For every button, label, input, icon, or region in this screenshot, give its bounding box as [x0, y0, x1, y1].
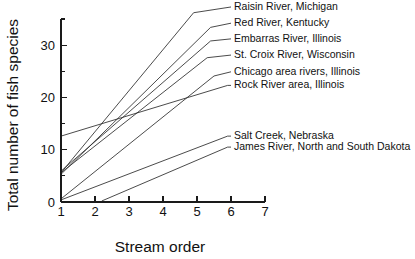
series-label: Red River, Kentucky	[234, 16, 330, 28]
series-line	[102, 147, 228, 201]
x-tick-label-group: 1234567	[57, 204, 268, 219]
x-tick-label: 1	[57, 204, 64, 219]
y-tick-label: 0	[48, 195, 55, 210]
series-line	[61, 76, 214, 199]
fish-species-vs-stream-order-chart: 0102030 1234567 Raisin River, MichiganRe…	[0, 0, 415, 259]
series-leader-line	[214, 72, 231, 76]
series-label: Chicago area rivers, Illinois	[234, 65, 360, 77]
x-tick-label: 3	[125, 204, 132, 219]
x-axis-title: Stream order	[115, 238, 205, 255]
series-line-group	[61, 13, 228, 201]
series-label: Embarras River, Illinois	[234, 32, 341, 44]
y-tick-label-group: 0102030	[41, 38, 55, 210]
series-label-group: Raisin River, MichiganRed River, Kentuck…	[234, 0, 410, 152]
x-tick-label: 2	[91, 204, 98, 219]
y-tick-label: 20	[41, 90, 55, 105]
x-tick-label: 7	[261, 204, 268, 219]
series-line	[61, 58, 207, 173]
y-tick-label: 30	[41, 38, 55, 53]
series-leader-line	[211, 39, 231, 41]
x-tick-label: 4	[159, 204, 166, 219]
x-tick-group	[61, 196, 265, 202]
y-axis-title: Total number of fish species	[4, 19, 21, 211]
x-tick-label: 5	[193, 204, 200, 219]
y-tick-group	[61, 19, 67, 202]
series-line	[61, 136, 228, 200]
series-label: Rock River area, Illinois	[234, 78, 344, 90]
series-leader-line	[211, 23, 231, 27]
series-label: St. Croix River, Wisconsin	[234, 48, 355, 60]
series-leader-line	[194, 7, 231, 13]
series-line	[61, 27, 211, 174]
series-label: Raisin River, Michigan	[234, 0, 338, 12]
series-line	[61, 13, 194, 173]
series-label: James River, North and South Dakota	[234, 140, 410, 152]
y-tick-label: 10	[41, 142, 55, 157]
chart-figure: 0102030 1234567 Raisin River, MichiganRe…	[0, 0, 415, 259]
x-tick-label: 6	[227, 204, 234, 219]
series-leader-line	[207, 55, 231, 58]
